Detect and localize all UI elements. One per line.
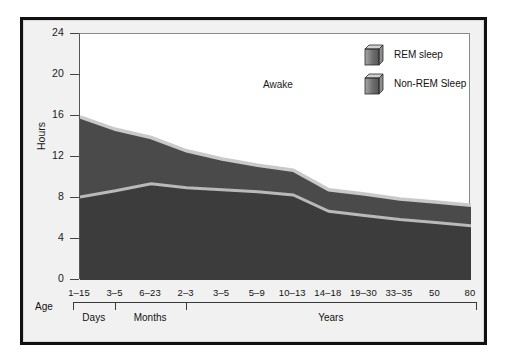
group-bracket [73,302,115,309]
y-tick-mark [70,74,79,75]
x-tick-label: 3–5 [106,287,122,298]
x-axis-title: Age [35,301,53,312]
group-bracket-tick [476,302,477,310]
group-label: Months [134,312,167,323]
y-tick-mark [70,238,79,239]
x-tick-label: 33–35 [385,287,412,298]
annotation-awake: Awake [263,79,293,90]
group-label: Days [82,312,105,323]
y-tick-mark [70,197,79,198]
cube-icon [364,44,386,66]
group-bracket [115,302,186,309]
group-bracket-tick [73,302,74,310]
legend-label-rem: REM sleep [394,49,443,60]
group-bracket-tick [115,302,116,310]
x-tick-label: 10–13 [279,287,306,298]
x-tick-label: 6–23 [139,287,161,298]
group-bracket [186,302,476,309]
group-bracket-tick [186,302,187,310]
x-tick-label: 80 [465,287,476,298]
legend-label-non-rem: Non-REM Sleep [394,78,466,89]
y-tick-mark [70,156,79,157]
y-axis-title: Hours [35,122,47,150]
x-tick-label: 3–5 [213,287,229,298]
x-tick-label: 50 [429,287,440,298]
plot-area [79,33,470,279]
x-tick-label: 14–18 [314,287,341,298]
x-tick-label: 5–9 [249,287,265,298]
figure-root: 04812162024 Hours 1–153–56–232–33–55–910… [0,0,509,364]
group-label: Years [318,312,343,323]
area-chart-svg [80,34,471,280]
x-tick-label: 19–30 [350,287,377,298]
cube-icon [364,73,386,95]
y-tick-mark [70,115,79,116]
x-tick-label: 1–15 [68,287,90,298]
y-tick-mark [70,279,79,280]
y-axis-title-host: Hours [42,0,62,280]
x-tick-label: 2–3 [178,287,194,298]
y-tick-mark [70,33,79,34]
area-non-rem-sleep [80,184,471,280]
